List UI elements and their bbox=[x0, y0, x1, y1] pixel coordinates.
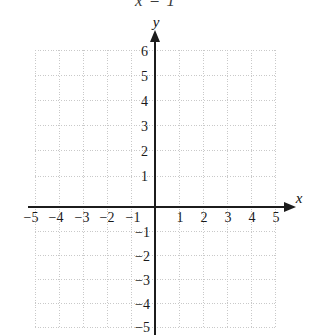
y-tick-label-neg2: −2 bbox=[135, 249, 150, 264]
y-tick-label-pos6: 6 bbox=[141, 44, 148, 59]
x-tick-label-neg3: −3 bbox=[75, 210, 90, 225]
x-tick-label-neg2: −2 bbox=[100, 210, 115, 225]
y-axis bbox=[150, 30, 160, 335]
x-tick-label-pos1: 1 bbox=[177, 210, 184, 225]
y-tick-label-neg3: −3 bbox=[135, 273, 150, 288]
x-tick-label-pos2: 2 bbox=[201, 210, 208, 225]
x-tick-label-neg4: −4 bbox=[49, 210, 64, 225]
y-tick-label-pos1: 1 bbox=[141, 169, 148, 184]
x-tick-label-pos4: 4 bbox=[249, 210, 256, 225]
x-axis-arrowhead bbox=[284, 202, 296, 212]
y-tick-label-neg1: −1 bbox=[135, 225, 150, 240]
x-tick-label-pos5: 5 bbox=[273, 210, 280, 225]
y-tick-label-pos4: 4 bbox=[141, 94, 148, 109]
x-tick-labels: −5 −4 −3 −2 −1 1 2 3 4 5 bbox=[24, 210, 280, 225]
y-tick-label-pos3: 3 bbox=[141, 119, 148, 134]
y-axis-label: y bbox=[151, 14, 160, 30]
y-tick-label-neg5: −5 bbox=[135, 320, 150, 335]
coordinate-plane: x y −5 −4 −3 −2 −1 1 2 3 4 5 6 5 4 3 2 1… bbox=[0, 0, 311, 335]
x-axis-label: x bbox=[295, 190, 303, 206]
y-axis-arrowhead bbox=[150, 30, 160, 42]
y-tick-label-neg4: −4 bbox=[135, 297, 150, 312]
coordinate-plane-svg: x y −5 −4 −3 −2 −1 1 2 3 4 5 6 5 4 3 2 1… bbox=[0, 0, 311, 335]
x-tick-label-neg1: −1 bbox=[126, 210, 141, 225]
y-tick-label-pos5: 5 bbox=[141, 69, 148, 84]
x-axis bbox=[28, 202, 296, 212]
y-tick-labels: 6 5 4 3 2 1 −1 −2 −3 −4 −5 bbox=[135, 44, 150, 335]
x-tick-label-neg5: −5 bbox=[24, 210, 39, 225]
y-tick-label-pos2: 2 bbox=[141, 144, 148, 159]
x-tick-label-pos3: 3 bbox=[225, 210, 232, 225]
